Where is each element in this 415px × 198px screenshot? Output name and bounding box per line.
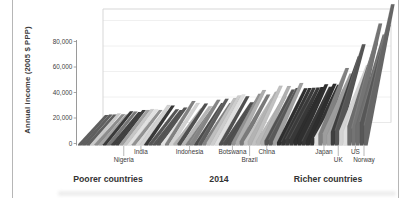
page-text-smudge xyxy=(58,191,396,196)
x-axis-country-label: Japan xyxy=(315,148,333,156)
x-axis-country-label: Botswana xyxy=(218,148,247,155)
country-bars xyxy=(78,4,395,145)
x-axis-country-label: Brazil xyxy=(242,156,258,163)
poorer-countries-label: Poorer countries xyxy=(73,174,143,184)
x-axis-country-label: Norway xyxy=(353,156,375,164)
y-tick-label: 40,000 xyxy=(53,89,73,96)
richer-countries-label: Richer countries xyxy=(294,174,363,184)
y-axis-title: Annual income (2005 $ PPP) xyxy=(23,26,32,134)
y-tick-label: 0 xyxy=(69,140,73,147)
y-axis: 020,00040,00060,00080,000 xyxy=(53,38,77,147)
year-label: 2014 xyxy=(209,174,228,184)
x-axis-country-label: UK xyxy=(334,156,344,163)
x-axis-country-label: Nigeria xyxy=(114,156,135,164)
income-3d-bar-chart: 020,00040,00060,00080,000 NigeriaIndiaIn… xyxy=(0,0,415,198)
y-tick-label: 20,000 xyxy=(53,114,73,121)
x-axis-country-label: India xyxy=(134,148,148,155)
x-axis-country-label: US xyxy=(351,148,360,155)
x-axis-labels: NigeriaIndiaIndonesiaBotswanaBrazilChina… xyxy=(114,146,376,164)
y-tick-label: 80,000 xyxy=(53,38,73,45)
x-axis-country-label: China xyxy=(258,148,275,155)
figure-panel: 020,00040,00060,00080,000 NigeriaIndiaIn… xyxy=(0,0,415,198)
y-tick-label: 60,000 xyxy=(53,63,73,70)
x-axis-country-label: Indonesia xyxy=(176,148,204,155)
